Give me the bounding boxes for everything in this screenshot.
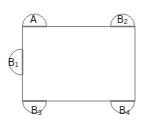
label-b2: B2 bbox=[117, 14, 128, 25]
label-b4: B4 bbox=[119, 105, 130, 116]
main-rectangle bbox=[23, 27, 136, 102]
label-b1: B1 bbox=[8, 57, 19, 68]
label-a: A bbox=[30, 14, 37, 25]
label-b3: B3 bbox=[31, 105, 42, 116]
diagram-canvas: A B2 B1 B3 B4 bbox=[0, 0, 149, 124]
